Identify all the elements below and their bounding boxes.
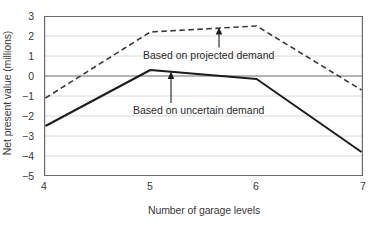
x-tick-label-4: 4 [34,181,54,192]
plot-area [44,16,363,176]
y-tick-label-neg4: −4 [8,151,34,161]
y-tick-label-0: 0 [8,71,34,81]
x-axis-title: Number of garage levels [44,203,364,217]
y-tick-label-neg2: −2 [8,111,34,121]
x-tick-label-6: 6 [246,181,266,192]
y-tick-label-2: 2 [8,31,34,41]
y-tick-label-neg3: −3 [8,131,34,141]
annotation-label-projected-demand: Based on projected demand [143,49,274,61]
annotation-label-uncertain-demand: Based on uncertain demand [133,104,264,116]
x-tick-label-5: 5 [140,181,160,192]
annotation-arrow-projected [216,28,223,48]
y-tick-label-3: 3 [8,11,34,21]
series-projected-demand [46,26,362,98]
y-tick-label-1: 1 [8,51,34,61]
npv-line-chart: Net present value (millions) 3 2 1 0 −1 … [0,0,378,227]
y-tick-label-neg1: −1 [8,91,34,101]
y-tick-label-neg5: −5 [8,171,34,181]
x-tick-label-7: 7 [353,181,373,192]
